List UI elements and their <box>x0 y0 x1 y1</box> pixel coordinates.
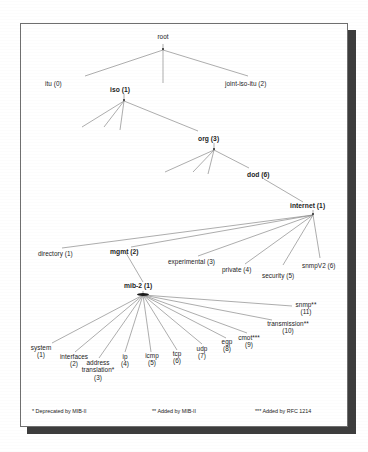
node-number: (3) <box>94 374 102 381</box>
node-number: (5) <box>148 359 156 366</box>
node-label: system <box>31 344 52 351</box>
node-label: egp <box>222 338 233 345</box>
node-joint-iso-itu[interactable]: joint-iso-itu (2) <box>225 80 266 87</box>
junction-root <box>162 48 164 50</box>
node-mib2-child-ip[interactable]: ip (4) <box>114 353 136 368</box>
node-mib2-child-snmp[interactable]: snmp** (11) <box>290 301 322 316</box>
node-number: (8) <box>223 345 231 352</box>
node-number: (7) <box>198 352 206 359</box>
node-iso[interactable]: iso (1) <box>110 86 130 93</box>
node-private[interactable]: private (4) <box>222 266 251 273</box>
node-root[interactable]: root <box>151 33 175 40</box>
node-org[interactable]: org (3) <box>198 135 219 142</box>
figure-canvas: root itu (0) iso (1) joint-iso-itu (2) o… <box>0 0 368 452</box>
node-mib2-child-udp[interactable]: udp (7) <box>191 345 213 360</box>
tree-edges <box>0 0 368 452</box>
node-label: cmot*** <box>238 334 260 341</box>
node-experimental[interactable]: experimental (3) <box>168 258 215 265</box>
node-number: (4) <box>121 360 129 367</box>
node-number: (1) <box>37 351 45 358</box>
node-itu[interactable]: itu (0) <box>45 80 62 87</box>
node-label: udp <box>197 345 208 352</box>
node-snmpv2[interactable]: snmpV2 (6) <box>302 262 336 269</box>
node-dod[interactable]: dod (6) <box>247 171 270 178</box>
node-mib-2[interactable]: mib-2 (1) <box>124 282 152 289</box>
node-number: (11) <box>300 308 311 315</box>
node-directory[interactable]: directory (1) <box>38 250 73 257</box>
node-number: (10) <box>282 327 294 334</box>
node-mib2-child-cmot[interactable]: cmot*** (9) <box>236 334 262 349</box>
node-label: address translation* <box>82 359 115 373</box>
junction-internet <box>312 213 314 215</box>
node-label: icmp <box>145 352 159 359</box>
footnote-added-rfc1214: *** Added by RFC 1214 <box>255 408 311 414</box>
node-mgmt[interactable]: mgmt (2) <box>110 248 139 255</box>
node-mib2-child-tcp[interactable]: tcp (6) <box>166 350 188 365</box>
node-label: snmp** <box>296 301 317 308</box>
footnote-added-mib2: ** Added by MIB-II <box>152 408 196 414</box>
junction-mib2 <box>137 293 149 296</box>
node-mib2-child-icmp[interactable]: icmp (5) <box>140 352 164 367</box>
node-label: transmission** <box>267 320 309 327</box>
node-mib2-child-egp[interactable]: egp (8) <box>216 338 238 353</box>
junction-iso <box>123 99 125 101</box>
node-number: (9) <box>245 341 253 348</box>
node-label: tcp <box>173 350 182 357</box>
node-security[interactable]: security (5) <box>262 272 294 279</box>
node-internet[interactable]: internet (1) <box>290 202 325 209</box>
junction-org <box>213 148 215 150</box>
node-label: ip <box>122 353 127 360</box>
node-mib2-child-transmission[interactable]: transmission** (10) <box>262 320 314 335</box>
footnote-deprecated: * Deprecated by MIB-II <box>32 408 87 414</box>
node-number: (6) <box>173 357 181 364</box>
